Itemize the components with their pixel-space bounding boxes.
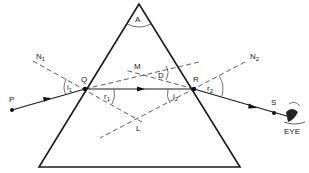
point-r [192, 87, 197, 92]
normals-intersection-label: L [136, 124, 141, 133]
normal-1-label: N1 [36, 52, 46, 62]
point-q-label: Q [81, 75, 87, 84]
angle-i1-label: i1 [67, 83, 73, 93]
point-s-label: S [271, 98, 276, 107]
apex-angle-label: A [135, 15, 141, 24]
eye-icon [284, 102, 305, 124]
deviation-vertex-label: M [134, 62, 141, 71]
eye-label: EYE [284, 127, 300, 136]
angle-r2-label: r2 [207, 84, 214, 94]
incident-ray-extension [85, 62, 199, 89]
angle-i1-arc [64, 79, 66, 95]
prism-diagram: A N1 N2 L M D P S Q R i1 r1 i2 r2 [0, 0, 309, 173]
point-q [83, 87, 88, 92]
point-s [272, 111, 276, 115]
angle-i2-arc [167, 89, 170, 103]
angle-i2-label: i2 [173, 92, 179, 102]
normal-2-label: N2 [250, 52, 260, 62]
point-r-label: R [193, 75, 199, 84]
prism-triangle [39, 4, 240, 167]
incident-ray [12, 89, 85, 110]
point-p-label: P [9, 95, 14, 104]
deviation-angle-arc [166, 66, 168, 80]
angle-r1-label: r1 [104, 92, 111, 102]
angle-r1-arc [112, 89, 115, 104]
point-p [10, 108, 14, 112]
deviation-angle-label: D [158, 71, 164, 80]
apex-angle-arc [127, 24, 151, 27]
angle-r2-arc [219, 76, 223, 96]
refracted-arrow [137, 87, 145, 92]
emergent-arrow [248, 104, 257, 109]
normal-1-line [33, 61, 142, 122]
